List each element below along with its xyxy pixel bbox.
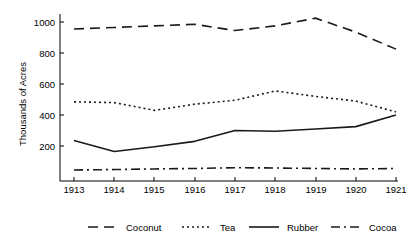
y-tick-label-600: 600: [39, 79, 55, 90]
x-tick-label-1914: 1914: [103, 184, 124, 195]
x-tick-label-1917: 1917: [224, 184, 245, 195]
y-tick-label-1000: 1000: [34, 17, 55, 28]
x-tick-label-1921: 1921: [385, 184, 406, 195]
legend-label-rubber: Rubber: [287, 222, 318, 233]
x-tick-label-1916: 1916: [184, 184, 205, 195]
legend-label-tea: Tea: [220, 222, 236, 233]
legend-label-coconut: Coconut: [126, 222, 162, 233]
x-tick-label-1918: 1918: [264, 184, 285, 195]
x-tick-label-1920: 1920: [345, 184, 366, 195]
series-line-coconut: [74, 18, 396, 49]
legend-label-cocoa: Cocoa: [369, 222, 397, 233]
y-axis-title: Thousands of Acres: [17, 62, 28, 146]
chart-legend: Coconut Tea Rubber Cocoa: [88, 222, 397, 233]
y-tick-label-400: 400: [39, 110, 55, 121]
y-tick-label-200: 200: [39, 141, 55, 152]
x-tick-label-1915: 1915: [143, 184, 164, 195]
x-tick-label-1913: 1913: [63, 184, 84, 195]
y-tick-label-800: 800: [39, 48, 55, 59]
series-group: [74, 18, 396, 170]
series-line-rubber: [74, 115, 396, 151]
series-line-tea: [74, 91, 396, 112]
line-chart: Thousands of Acres 1000 800 600 400 200 …: [0, 0, 411, 243]
x-tick-label-1919: 1919: [305, 184, 326, 195]
series-line-cocoa: [74, 168, 396, 170]
chart-canvas: Thousands of Acres 1000 800 600 400 200 …: [0, 0, 411, 243]
